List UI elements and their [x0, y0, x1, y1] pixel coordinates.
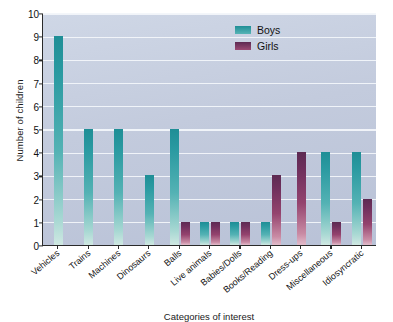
bar-boys-idiosyncratic — [352, 152, 361, 245]
bar-boys-vehicles — [54, 36, 63, 245]
y-tick-mark — [39, 245, 43, 246]
y-tick-label: 1 — [33, 217, 39, 228]
bar-boys-babies-dolls — [230, 222, 239, 245]
x-axis-tick-labels: VehiclesTrainsMachinesDinosaursBallsLive… — [42, 248, 376, 310]
x-tick-mark — [209, 245, 210, 249]
bar-boys-books-reading — [261, 222, 270, 245]
y-tick-mark — [39, 60, 43, 61]
bar-girls-babies-dolls — [241, 222, 250, 245]
y-axis-title: Number of children — [14, 46, 25, 196]
y-tick-label: 8 — [33, 55, 39, 66]
x-axis-title: Categories of interest — [42, 311, 376, 322]
legend-swatch-girls — [235, 42, 251, 50]
y-tick-label: 9 — [33, 32, 39, 43]
x-tick-mark — [88, 245, 89, 249]
bar-boys-live-animals — [200, 222, 209, 245]
bar-girls-idiosyncratic — [363, 199, 372, 245]
bar-boys-dinosaurs — [145, 175, 154, 245]
bar-girls-dress-ups — [297, 152, 306, 245]
bar-boys-miscellaneous — [321, 152, 330, 245]
y-tick-mark — [39, 129, 43, 130]
x-tick-label-trains: Trains — [67, 248, 92, 272]
legend-label: Boys — [257, 24, 280, 36]
y-tick-mark — [39, 83, 43, 84]
bar-boys-trains — [84, 129, 93, 245]
bar-group — [134, 14, 164, 245]
legend-item-boys: Boys — [235, 24, 280, 36]
y-tick-label: 4 — [33, 148, 39, 159]
x-tick-label-balls: Balls — [162, 248, 183, 268]
y-tick-label: 6 — [33, 101, 39, 112]
y-tick-mark — [39, 37, 43, 38]
bar-girls-miscellaneous — [332, 222, 341, 245]
bar-group — [347, 14, 377, 245]
y-tick-label: 3 — [33, 171, 39, 182]
bar-group — [43, 14, 73, 245]
bar-group — [195, 14, 225, 245]
x-tick-mark — [270, 245, 271, 249]
bar-group — [286, 14, 316, 245]
x-tick-mark — [118, 245, 119, 249]
y-tick-mark — [39, 153, 43, 154]
x-tick-label-vehicles: Vehicles — [29, 248, 61, 277]
bar-girls-balls — [181, 222, 190, 245]
y-tick-label: 10 — [28, 9, 39, 20]
x-tick-mark — [239, 245, 240, 249]
bars-layer — [43, 14, 376, 245]
y-tick-mark — [39, 13, 43, 14]
bar-girls-live-animals — [211, 222, 220, 245]
bar-group — [316, 14, 346, 245]
x-tick-mark — [300, 245, 301, 249]
y-tick-label: 0 — [33, 241, 39, 252]
plot-area: 012345678910 — [42, 14, 376, 246]
y-tick-mark — [39, 106, 43, 107]
legend-swatch-boys — [235, 26, 251, 34]
bar-boys-machines — [114, 129, 123, 245]
bar-group — [164, 14, 194, 245]
y-tick-label: 2 — [33, 194, 39, 205]
x-tick-mark — [148, 245, 149, 249]
x-tick-mark — [330, 245, 331, 249]
x-tick-mark — [361, 245, 362, 249]
bar-chart-figure: Number of children 012345678910 BoysGirl… — [0, 0, 393, 322]
bar-girls-books-reading — [272, 175, 281, 245]
y-tick-mark — [39, 176, 43, 177]
x-tick-mark — [57, 245, 58, 249]
bar-boys-balls — [170, 129, 179, 245]
bar-group — [73, 14, 103, 245]
y-tick-mark — [39, 222, 43, 223]
bar-group — [104, 14, 134, 245]
y-tick-label: 5 — [33, 125, 39, 136]
y-tick-label: 7 — [33, 78, 39, 89]
legend-item-girls: Girls — [235, 40, 280, 52]
chart-legend: BoysGirls — [235, 24, 280, 56]
legend-label: Girls — [257, 40, 279, 52]
y-tick-mark — [39, 199, 43, 200]
